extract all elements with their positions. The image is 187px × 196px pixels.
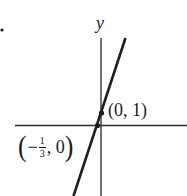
graph-canvas xyxy=(0,0,187,196)
point-x-intercept xyxy=(95,123,100,128)
coordinate-rest: , 0 xyxy=(47,138,65,156)
fraction: 1 3 xyxy=(39,136,46,159)
fraction-denominator: 3 xyxy=(40,149,45,159)
close-paren: ) xyxy=(65,133,74,162)
y-axis-label: y xyxy=(96,14,104,32)
fraction-numerator: 1 xyxy=(40,136,45,146)
point-x-intercept-label: ( − 1 3 , 0 ) xyxy=(18,134,74,160)
open-paren: ( xyxy=(18,133,27,162)
point-y-intercept-label: (0, 1) xyxy=(108,101,147,119)
point-y-intercept xyxy=(99,110,104,115)
minus-sign: − xyxy=(28,138,38,156)
stray-dot xyxy=(0,28,3,31)
graph-figure: y (0, 1) ( − 1 3 , 0 ) xyxy=(0,0,187,196)
